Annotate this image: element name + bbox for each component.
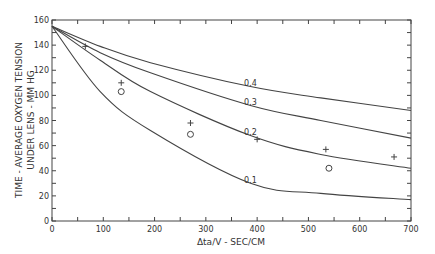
x-tick-label: 500 — [301, 225, 316, 234]
x-tick-label: 400 — [250, 225, 265, 234]
circle-marker — [118, 89, 124, 95]
circle-marker — [326, 165, 332, 171]
y-tick-label: 80 — [39, 117, 49, 126]
curve-0.1 — [52, 26, 411, 199]
plus-marker — [323, 146, 329, 152]
curve-label: 0.2 — [244, 128, 257, 137]
curve-label: 0.3 — [244, 98, 257, 107]
x-tick-label: 600 — [352, 225, 367, 234]
curve-label: 0.4 — [244, 79, 257, 88]
circle-marker — [187, 131, 193, 137]
x-tick-label: 300 — [198, 225, 213, 234]
y-tick-label: 60 — [39, 142, 49, 151]
plus-marker — [187, 120, 193, 126]
data-points — [82, 43, 397, 171]
x-axis-label: Δta/V - SEC/CM — [197, 237, 265, 247]
x-tick-label: 200 — [147, 225, 162, 234]
y-axis-label-line2: UNDER LENS - MM HG — [26, 70, 36, 169]
curve-label: 0.1 — [244, 176, 257, 185]
y-tick-label: 100 — [34, 91, 49, 100]
plus-marker — [391, 154, 397, 160]
plus-marker — [118, 80, 124, 86]
x-tick-label: 700 — [403, 225, 418, 234]
y-tick-label: 0 — [44, 217, 49, 226]
y-tick-label: 20 — [39, 192, 49, 201]
y-tick-label: 120 — [34, 66, 49, 75]
curves — [52, 26, 411, 199]
y-axis-label-line1: TIME - AVERAGE OXYGEN TENSION — [14, 42, 24, 199]
curve-labels: 0.40.30.20.1 — [244, 79, 257, 185]
plot-frame — [52, 20, 411, 221]
y-tick-label: 40 — [39, 167, 49, 176]
x-tick-label: 0 — [49, 225, 54, 234]
y-tick-label: 160 — [34, 16, 49, 25]
x-tick-label: 100 — [96, 225, 111, 234]
y-tick-label: 140 — [34, 41, 49, 50]
chart: 0100200300400500600700020406080100120140… — [0, 0, 435, 254]
